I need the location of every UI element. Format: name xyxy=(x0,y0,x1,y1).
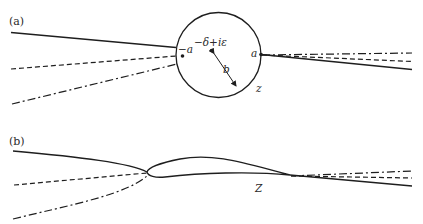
circle-boundary xyxy=(176,13,261,98)
plane-z-label: z xyxy=(255,82,262,94)
point-minus-a-label: −a xyxy=(178,43,193,55)
panel-b: (b) Z xyxy=(9,135,412,219)
panel-a-label: (a) xyxy=(9,15,24,28)
dashdot-streamline-upstream xyxy=(13,176,147,219)
plane-Z-label: Z xyxy=(254,182,263,194)
dashdot-streamline-downstream xyxy=(291,171,412,176)
circle-center-label: −δ+iε xyxy=(194,36,227,48)
conformal-mapping-figure: (a) −a a −δ+iε b z (b) xyxy=(0,0,423,224)
point-a-marker xyxy=(259,53,263,57)
radius-label: b xyxy=(223,63,230,75)
dashdot-streamline-upstream xyxy=(12,64,177,104)
dashed-streamline-upstream xyxy=(14,173,147,185)
solid-streamline-upstream xyxy=(11,33,176,48)
panel-b-label: (b) xyxy=(9,135,25,148)
dashed-streamline-upstream xyxy=(11,56,176,69)
dashdot-streamline-downstream xyxy=(262,53,412,55)
solid-streamline-upstream xyxy=(13,151,147,172)
circle-center-marker xyxy=(210,49,214,53)
point-a-label: a xyxy=(251,47,257,59)
dashed-streamline-downstream xyxy=(262,55,412,62)
solid-streamline-downstream xyxy=(261,55,412,70)
airfoil-outline xyxy=(147,157,290,177)
panel-a: (a) −a a −δ+iε b z xyxy=(9,13,412,105)
